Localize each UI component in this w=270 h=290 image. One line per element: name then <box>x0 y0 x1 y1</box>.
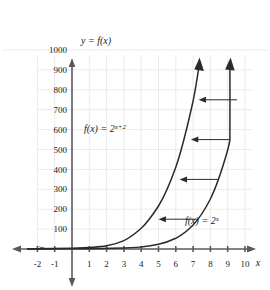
y-tick-label: 1000 <box>49 45 68 55</box>
curve-label-2-pow-x: f(x) = 2x <box>185 215 220 228</box>
y-tick-label: 100 <box>54 224 68 234</box>
x-tick-label: 2 <box>104 259 109 269</box>
y-tick-label: 200 <box>54 204 68 214</box>
y-tick-label: 300 <box>54 184 68 194</box>
y-tick-label: 500 <box>54 145 68 155</box>
x-tick-label: -1 <box>51 259 59 269</box>
y-tick-label: 400 <box>54 165 68 175</box>
x-tick-label: 1 <box>87 259 92 269</box>
x-tick-label: 7 <box>191 259 196 269</box>
x-tick-label: 9 <box>225 259 230 269</box>
curve-label-text: f(x) = 2 <box>84 123 115 135</box>
x-tick-label: 10 <box>241 259 251 269</box>
x-tick-label: -2 <box>34 259 42 269</box>
curve-label-exponent: x+2 <box>114 123 127 131</box>
y-axis-label: y = f(x) <box>80 35 112 47</box>
x-axis-label: x <box>255 257 261 268</box>
x-tick-label: 8 <box>208 259 213 269</box>
exponential-function-graph: -2 -1 1 2 3 4 5 6 7 8 9 10 100 200 300 4… <box>0 0 270 290</box>
y-tick-label: 800 <box>54 85 68 95</box>
x-tick-label: 5 <box>156 259 161 269</box>
x-tick-label: 3 <box>122 259 127 269</box>
y-tick-label: 900 <box>54 65 68 75</box>
svg-text:f(x) = 2x: f(x) = 2x <box>185 215 220 228</box>
x-tick-label: 6 <box>174 259 179 269</box>
y-tick-label: 600 <box>54 125 68 135</box>
x-tick-label: 4 <box>139 259 144 269</box>
curve-label-text: f(x) = 2 <box>185 215 216 227</box>
y-tick-label: 700 <box>54 105 68 115</box>
